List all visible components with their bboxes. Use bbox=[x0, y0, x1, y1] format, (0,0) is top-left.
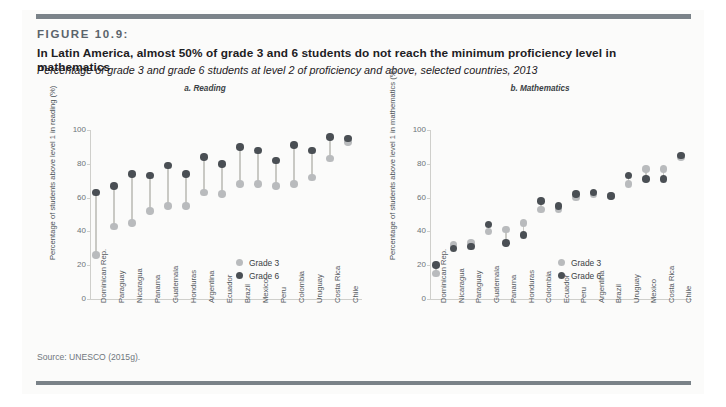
grade3-swatch-icon bbox=[558, 259, 565, 266]
x-tick-label: Honduras bbox=[189, 270, 198, 303]
legend-mathematics: Grade 3 Grade 6 bbox=[558, 256, 601, 282]
x-tick-label: Uruguay bbox=[315, 274, 324, 303]
x-tick-label: Dominican Rep. bbox=[99, 249, 108, 303]
x-tick-label: Honduras bbox=[527, 270, 536, 303]
legend-reading: Grade 3 Grade 6 bbox=[236, 256, 279, 282]
x-tick-label: Chile bbox=[684, 286, 693, 303]
x-tick-label: Panama bbox=[509, 275, 518, 303]
plot-area-mathematics: 020406080100 Dominican Rep.NicaraguaPara… bbox=[380, 106, 700, 302]
legend-item-grade3[interactable]: Grade 3 bbox=[236, 256, 279, 269]
x-tick-label: Mexico bbox=[649, 279, 658, 303]
x-tick-label: Guatemala bbox=[171, 266, 180, 303]
legend-label-grade3: Grade 3 bbox=[571, 258, 601, 268]
x-tick-label: Paraguay bbox=[117, 270, 126, 303]
x-tick-label: Nicaragua bbox=[457, 268, 466, 303]
figure-page: FIGURE 10.9: In Latin America, almost 50… bbox=[0, 0, 726, 407]
x-axis-categories-mathematics: Dominican Rep.NicaraguaParaguayGuatemala… bbox=[380, 106, 700, 302]
x-tick-label: Uruguay bbox=[632, 274, 641, 303]
x-tick-label: Dominican Rep. bbox=[439, 249, 448, 303]
x-tick-label: Mexico bbox=[261, 279, 270, 303]
grade3-swatch-icon bbox=[236, 259, 243, 266]
x-tick-label: Colombia bbox=[544, 271, 553, 303]
plot-area-reading: 020406080100 Dominican Rep.ParaguayNicar… bbox=[40, 106, 370, 302]
x-axis-categories-reading: Dominican Rep.ParaguayNicaraguaPanamaGua… bbox=[40, 106, 370, 302]
legend-item-grade6[interactable]: Grade 6 bbox=[558, 269, 601, 282]
legend-item-grade3[interactable]: Grade 3 bbox=[558, 256, 601, 269]
source-note: Source: UNESCO (2015g). bbox=[37, 352, 140, 362]
x-tick-label: Costa Rica bbox=[667, 266, 676, 303]
x-tick-label: Guatemala bbox=[492, 266, 501, 303]
panel-title-reading: a. Reading bbox=[40, 84, 370, 93]
x-tick-label: Peru bbox=[579, 287, 588, 303]
x-tick-label: Costa Rica bbox=[333, 266, 342, 303]
x-tick-label: Ecuador bbox=[225, 275, 234, 303]
x-tick-label: Chile bbox=[351, 286, 360, 303]
legend-label-grade3: Grade 3 bbox=[249, 258, 279, 268]
grade6-swatch-icon bbox=[236, 272, 243, 279]
x-tick-label: Brazil bbox=[614, 284, 623, 303]
bottom-rule bbox=[36, 381, 691, 385]
legend-label-grade6: Grade 6 bbox=[249, 271, 279, 281]
figure-subtitle: Percentage of grade 3 and grade 6 studen… bbox=[37, 64, 687, 76]
chart-panel-reading: a. Reading Percentage of students above … bbox=[40, 84, 370, 354]
top-rule bbox=[36, 14, 691, 19]
x-tick-label: Paraguay bbox=[474, 270, 483, 303]
grade6-swatch-icon bbox=[558, 272, 565, 279]
legend-item-grade6[interactable]: Grade 6 bbox=[236, 269, 279, 282]
x-tick-label: Panama bbox=[153, 275, 162, 303]
chart-panel-mathematics: b. Mathematics Percentage of students ab… bbox=[380, 84, 700, 354]
x-tick-label: Argentina bbox=[207, 270, 216, 303]
x-tick-label: Brazil bbox=[243, 284, 252, 303]
x-tick-label: Nicaragua bbox=[135, 268, 144, 303]
legend-label-grade6: Grade 6 bbox=[571, 271, 601, 281]
panel-title-mathematics: b. Mathematics bbox=[380, 84, 700, 93]
x-tick-label: Colombia bbox=[297, 271, 306, 303]
figure-number: FIGURE 10.9: bbox=[37, 28, 129, 40]
x-tick-label: Peru bbox=[279, 287, 288, 303]
